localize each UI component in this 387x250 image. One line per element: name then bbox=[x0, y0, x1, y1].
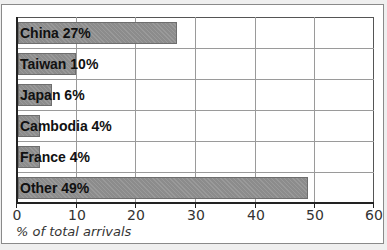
x-tick-label: 60 bbox=[359, 207, 387, 223]
bar-label-japan: Japan 6% bbox=[20, 84, 85, 106]
y-axis bbox=[16, 17, 18, 204]
row-divider bbox=[16, 141, 374, 142]
row-divider bbox=[16, 48, 374, 49]
row-divider bbox=[16, 172, 374, 173]
bar-label-cambodia: Cambodia 4% bbox=[20, 115, 112, 137]
x-tick-label: 20 bbox=[121, 207, 151, 223]
x-tick-label: 10 bbox=[62, 207, 92, 223]
bar-label-france: France 4% bbox=[20, 146, 90, 168]
bar-label-china: China 27% bbox=[20, 22, 91, 44]
x-axis-title: % of total arrivals bbox=[16, 224, 131, 239]
row-divider bbox=[16, 110, 374, 111]
bar-label-other: Other 49% bbox=[20, 177, 89, 199]
row-divider bbox=[16, 79, 374, 80]
x-tick-label: 40 bbox=[241, 207, 271, 223]
x-tick-label: 0 bbox=[2, 207, 32, 223]
bar-label-taiwan: Taiwan 10% bbox=[20, 53, 98, 75]
x-tick-label: 30 bbox=[181, 207, 211, 223]
x-tick-label: 50 bbox=[300, 207, 330, 223]
